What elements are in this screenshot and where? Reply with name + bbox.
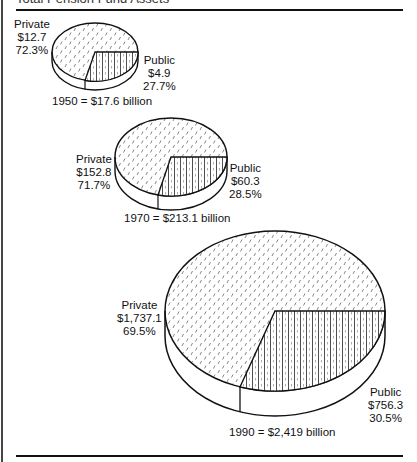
caption-1990: 1990 = $2,419 billion	[229, 426, 335, 438]
label-1970-public: Public $60.3 28.5%	[229, 162, 262, 201]
caption-1950: 1950 = $17.6 billion	[52, 95, 152, 107]
label-1990-public: Public $756.3 30.5%	[368, 386, 403, 425]
label-1950-private: Private $12.7 72.3%	[14, 18, 50, 57]
pie-charts	[0, 0, 417, 462]
label-1970-private: Private $152.8 71.7%	[76, 153, 112, 192]
pie-1950	[52, 23, 138, 90]
caption-1970: 1970 = $213.1 billion	[124, 212, 230, 224]
pie-1970	[115, 118, 227, 210]
label-1990-private: Private $1,737.1 69.5%	[117, 299, 162, 338]
label-1950-public: Public $4.9 27.7%	[143, 54, 176, 93]
pie-1990	[165, 231, 385, 416]
